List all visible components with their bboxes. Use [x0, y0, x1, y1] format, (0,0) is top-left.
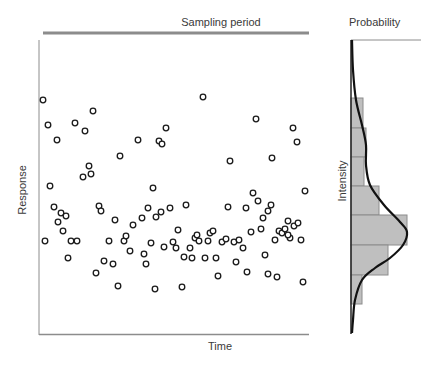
scatter-point — [153, 214, 159, 220]
scatter-point — [253, 116, 259, 122]
scatter-point — [194, 232, 200, 238]
scatter-point — [141, 251, 147, 257]
scatter-point — [262, 252, 268, 258]
scatter-point — [258, 226, 264, 232]
scatter-point — [282, 226, 288, 232]
scatter-point — [47, 183, 53, 189]
histogram-bin — [351, 157, 364, 186]
scatter-point — [101, 258, 107, 264]
histogram-bin — [351, 245, 388, 275]
scatter-point — [298, 237, 304, 243]
scatter-point — [285, 232, 291, 238]
scatter-point — [161, 244, 167, 250]
scatter-point — [170, 239, 176, 245]
scatter-point — [86, 163, 92, 169]
scatter-point — [148, 240, 154, 246]
scatter-point — [196, 238, 202, 244]
scatter-point — [285, 218, 291, 224]
scatter-point — [110, 261, 116, 267]
scatter-point — [240, 245, 246, 251]
scatter-point — [290, 125, 296, 131]
scatter-point — [68, 238, 74, 244]
scatter-point — [82, 128, 88, 134]
histogram-bin — [351, 275, 362, 304]
scatter-point — [143, 261, 149, 267]
scatter-point — [265, 271, 271, 277]
scatter-point — [302, 188, 308, 194]
scatter-point — [187, 245, 193, 251]
scatter-point — [45, 122, 51, 128]
scatter-point — [260, 215, 266, 221]
scatter-point — [80, 174, 86, 180]
scatter-point — [93, 270, 99, 276]
scatter-point — [295, 220, 301, 226]
scatter-point — [150, 185, 156, 191]
scatter-point — [294, 139, 300, 145]
scatter-point — [127, 248, 133, 254]
histogram-bin — [351, 186, 379, 215]
scatter-point — [189, 255, 195, 261]
scatter-point — [98, 208, 104, 214]
scatter-point — [269, 155, 275, 161]
scatter-point — [63, 213, 69, 219]
scatter-point — [233, 259, 239, 265]
scatter-point — [183, 202, 189, 208]
scatter-point — [181, 254, 187, 260]
scatter-point — [115, 283, 121, 289]
scatter-point — [55, 219, 61, 225]
scatter-point — [265, 208, 271, 214]
scatter-point — [112, 217, 118, 223]
scatter-point — [88, 171, 94, 177]
scatter-point — [145, 205, 151, 211]
scatter-point — [205, 238, 211, 244]
scatter-point — [159, 141, 165, 147]
scatter-point — [117, 153, 123, 159]
scatter-point — [139, 215, 145, 221]
scatter-point — [223, 236, 229, 242]
scatter-point — [250, 190, 256, 196]
scatter-point — [167, 205, 173, 211]
scatter-point — [248, 229, 254, 235]
scatter-point — [158, 209, 164, 215]
scatter-point — [255, 198, 261, 204]
scatter-point — [243, 205, 249, 211]
scatter-point — [200, 94, 206, 100]
scatter-point — [106, 238, 112, 244]
scatter-point — [225, 204, 231, 210]
scatter-point — [213, 255, 219, 261]
scatter-points — [40, 94, 308, 292]
scatter-point — [90, 108, 96, 114]
scatter-point — [210, 228, 216, 234]
scatter-point — [274, 274, 280, 280]
scatter-point — [51, 204, 57, 210]
scatter-point — [202, 255, 208, 261]
scatter-point — [72, 120, 78, 126]
scatter-point — [300, 279, 306, 285]
scatter-point — [227, 158, 233, 164]
chart-canvas — [0, 0, 435, 368]
scatter-point — [42, 238, 48, 244]
scatter-point — [244, 269, 250, 275]
scatter-point — [152, 286, 158, 292]
scatter-point — [215, 273, 221, 279]
scatter-point — [163, 125, 169, 131]
scatter-point — [175, 227, 181, 233]
scatter-point — [272, 237, 278, 243]
scatter-point — [74, 238, 80, 244]
scatter-point — [54, 137, 60, 143]
scatter-point — [65, 255, 71, 261]
scatter-point — [179, 284, 185, 290]
scatter-point — [173, 245, 179, 251]
scatter-point — [268, 202, 274, 208]
histogram-bins — [351, 98, 407, 304]
scatter-point — [130, 222, 136, 228]
scatter-point — [123, 233, 129, 239]
scatter-point — [236, 237, 242, 243]
scatter-point — [40, 97, 46, 103]
scatter-point — [60, 228, 66, 234]
scatter-point — [135, 137, 141, 143]
